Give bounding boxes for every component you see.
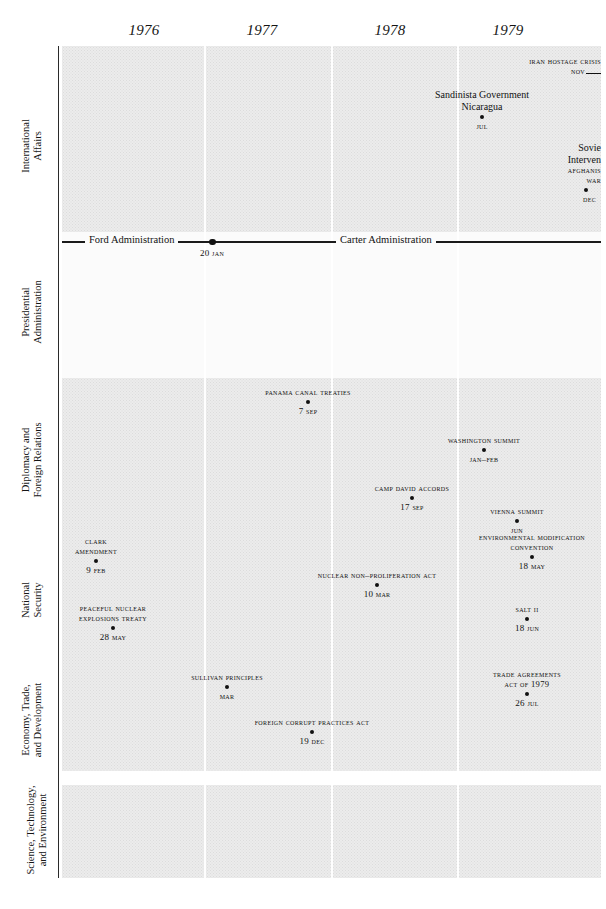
year-label-1979: 1979 bbox=[468, 22, 548, 39]
presidential-administration-lane: Ford Administration Carter Administratio… bbox=[62, 232, 601, 364]
event-title: SALT II bbox=[472, 604, 582, 614]
event-nuclear-non-proliferation-act: Nuclear Non–Proliferation Act 10 Mar bbox=[287, 570, 467, 599]
event-dot bbox=[480, 115, 484, 119]
event-dot bbox=[530, 555, 534, 559]
event-title-line-3: Afghanis bbox=[482, 165, 601, 175]
event-title: Iran Hostage Crisis bbox=[382, 56, 601, 66]
event-title-line-1: Environmental Modification bbox=[457, 532, 606, 542]
event-title-line-1: Trade Agreements bbox=[467, 669, 587, 679]
event-date: 26 Jul bbox=[467, 698, 587, 708]
event-title: Sullivan Principles bbox=[157, 672, 297, 682]
event-title: Nuclear Non–Proliferation Act bbox=[287, 570, 467, 580]
row-label-line-2: Affairs bbox=[32, 86, 44, 206]
event-vienna-summit: Vienna Summit Jun bbox=[452, 506, 582, 535]
event-dot bbox=[111, 626, 115, 630]
year-label-1978: 1978 bbox=[350, 22, 430, 39]
event-panama-canal-treaties: Panama Canal Treaties 7 Sep bbox=[228, 387, 388, 416]
row-label-line-2: Administration bbox=[32, 252, 44, 372]
year-label-1977: 1977 bbox=[222, 22, 302, 39]
event-date: 10 Mar bbox=[287, 589, 467, 599]
ongoing-rule-iran-hostage-crisis bbox=[586, 73, 601, 74]
event-date: 9 Feb bbox=[56, 565, 136, 575]
row-label-line-1: Presidential bbox=[20, 252, 32, 372]
event-title-line-1: Peaceful Nuclear bbox=[60, 603, 166, 613]
row-label-line-2: and Environment bbox=[37, 765, 49, 895]
event-title-line-2: Explosions Treaty bbox=[60, 613, 166, 623]
event-dot bbox=[306, 400, 310, 404]
event-sullivan-principles: Sullivan Principles Mar bbox=[157, 672, 297, 701]
event-date: Mar bbox=[157, 691, 297, 701]
event-date: 18 May bbox=[457, 561, 606, 571]
event-dot bbox=[225, 685, 229, 689]
event-dot bbox=[410, 496, 414, 500]
event-dot bbox=[482, 448, 486, 452]
row-label-presidential-administration: Presidential Administration bbox=[20, 252, 44, 372]
event-date: 19 Dec bbox=[222, 736, 402, 746]
event-title-line-1: Sandinista Government bbox=[402, 89, 562, 101]
event-title-line-2: Interven bbox=[482, 154, 601, 166]
event-dot bbox=[515, 519, 519, 523]
event-washington-summit: Washington Summit Jan–Feb bbox=[409, 435, 559, 464]
event-iran-hostage-crisis: Iran Hostage Crisis Nov bbox=[382, 56, 601, 76]
event-foreign-corrupt-practices-act: Foreign Corrupt Practices Act 19 Dec bbox=[222, 717, 402, 746]
row-label-line-2: and Development bbox=[32, 660, 44, 780]
event-date: Jul bbox=[402, 121, 562, 131]
row-label-line-1: Science, Technology, bbox=[25, 765, 37, 895]
event-date: Dec bbox=[482, 194, 601, 204]
event-title-line-1: Sovie bbox=[482, 142, 601, 154]
administration-label-ford: Ford Administration bbox=[85, 233, 178, 247]
event-dot bbox=[94, 559, 98, 563]
event-date: Nov bbox=[382, 66, 601, 76]
event-date: 18 Jun bbox=[472, 623, 582, 633]
event-title: Vienna Summit bbox=[452, 506, 582, 516]
event-title-line-4: War bbox=[482, 175, 601, 185]
event-environmental-modification-convention: Environmental Modification Convention 18… bbox=[457, 532, 606, 571]
plot-area: Iran Hostage Crisis Nov Sandinista Gover… bbox=[62, 46, 601, 878]
event-title-line-2: Act of 1979 bbox=[467, 679, 587, 689]
administration-label-carter: Carter Administration bbox=[336, 233, 436, 247]
axis-rule bbox=[58, 46, 59, 878]
event-title-line-1: Clark bbox=[56, 536, 136, 546]
row-label-line-2: Security bbox=[32, 540, 44, 660]
event-title: Camp David Accords bbox=[337, 483, 487, 493]
event-date: 7 Sep bbox=[228, 406, 388, 416]
event-title: Foreign Corrupt Practices Act bbox=[222, 717, 402, 727]
row-label-international-affairs: International Affairs bbox=[20, 86, 44, 206]
administration-transition-dot bbox=[209, 239, 216, 246]
event-dot bbox=[584, 188, 588, 192]
event-soviet-intervention-afghanistan-war: Sovie Interven Afghanis War Dec bbox=[482, 142, 601, 204]
event-peaceful-nuclear-explosions-treaty: Peaceful Nuclear Explosions Treaty 28 Ma… bbox=[60, 603, 166, 642]
administration-transition-date: 20 Jan bbox=[182, 248, 242, 258]
event-date: 28 May bbox=[60, 632, 166, 642]
row-label-line-1: Economy, Trade, bbox=[20, 660, 32, 780]
row-label-science-technology-environment: Science, Technology, and Environment bbox=[25, 765, 49, 895]
event-dot bbox=[310, 730, 314, 734]
event-title: Washington Summit bbox=[409, 435, 559, 445]
event-title-line-2: Convention bbox=[457, 542, 606, 552]
event-date: Jan–Feb bbox=[409, 454, 559, 464]
event-title: Panama Canal Treaties bbox=[228, 387, 388, 397]
row-label-national-security: National Security bbox=[20, 540, 44, 660]
event-title-line-2: Amendment bbox=[56, 546, 136, 556]
event-dot bbox=[525, 617, 529, 621]
row-label-line-2: Foreign Relations bbox=[32, 400, 44, 520]
event-dot bbox=[525, 692, 529, 696]
event-dot bbox=[375, 583, 379, 587]
year-divider-1978 bbox=[331, 46, 333, 878]
event-salt-ii: SALT II 18 Jun bbox=[472, 604, 582, 633]
event-sandinista-government-nicaragua: Sandinista Government Nicaragua Jul bbox=[402, 89, 562, 131]
year-label-1976: 1976 bbox=[104, 22, 184, 39]
row-label-line-1: Diplomacy and bbox=[20, 400, 32, 520]
row-label-line-1: International bbox=[20, 86, 32, 206]
row-label-line-1: National bbox=[20, 540, 32, 660]
row-label-economy-trade-development: Economy, Trade, and Development bbox=[20, 660, 44, 780]
event-title-line-2: Nicaragua bbox=[402, 101, 562, 113]
event-clark-amendment: Clark Amendment 9 Feb bbox=[56, 536, 136, 575]
year-divider-1977 bbox=[204, 46, 206, 878]
event-trade-agreements-act-of-1979: Trade Agreements Act of 1979 26 Jul bbox=[467, 669, 587, 708]
row-label-diplomacy-foreign-relations: Diplomacy and Foreign Relations bbox=[20, 400, 44, 520]
